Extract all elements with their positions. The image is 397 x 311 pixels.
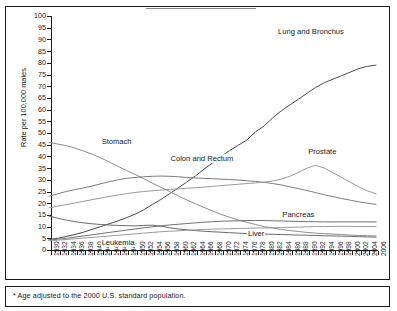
chart-frame: Rate per 100,000 males 05101520253035404… (5, 6, 390, 280)
y-tick-label: 80 (38, 59, 46, 66)
series-curves (49, 16, 376, 250)
y-tick-label: 100 (34, 12, 46, 19)
y-tick-label: 50 (38, 129, 46, 136)
y-tick-label: 90 (38, 36, 46, 43)
y-tick-label: 25 (38, 188, 46, 195)
y-tick-label: 60 (38, 106, 46, 113)
y-tick-label: 15 (38, 211, 46, 218)
y-tick-label: 75 (38, 71, 46, 78)
y-tick-label: 95 (38, 24, 46, 31)
footnote-frame: * Age adjusted to the 2000 U.S. standard… (5, 286, 390, 307)
y-tick-label: 35 (38, 165, 46, 172)
series-line (49, 165, 376, 208)
series-label: Stomach (101, 137, 133, 146)
y-tick-label: 55 (38, 118, 46, 125)
y-tick-label: 70 (38, 83, 46, 90)
series-label: Pancreas (281, 210, 315, 219)
y-tick-label: 85 (38, 48, 46, 55)
plot-area: Lung and BronchusStomachColon and Rectum… (49, 16, 376, 250)
series-label: Lung and Bronchus (277, 27, 345, 36)
series-label: Prostate (307, 147, 337, 156)
y-tick-label: 5 (42, 235, 46, 242)
series-label: Colon and Rectum (169, 154, 234, 163)
y-tick-label: 40 (38, 153, 46, 160)
y-tick-labels: 0510152025303540455055606570758085909510… (20, 16, 46, 250)
x-tick-mark (51, 251, 52, 255)
x-tick-label: 2006 (381, 241, 388, 256)
series-line (49, 176, 376, 204)
footnote-text: * Age adjusted to the 2000 U.S. standard… (13, 291, 186, 300)
y-tick-label: 45 (38, 141, 46, 148)
y-tick-label: 65 (38, 94, 46, 101)
y-tick-label: 20 (38, 200, 46, 207)
y-tick-label: 10 (38, 223, 46, 230)
y-tick-label: 30 (38, 176, 46, 183)
y-tick-label: 0 (42, 246, 46, 253)
figure-page: Rate per 100,000 males 05101520253035404… (0, 0, 397, 311)
series-label: Leukemia (101, 238, 136, 247)
top-rule-artifact (146, 8, 256, 9)
series-label: Liver (247, 229, 265, 238)
